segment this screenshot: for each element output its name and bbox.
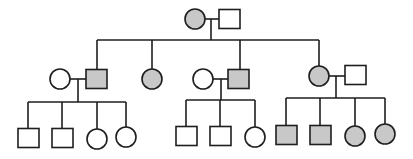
affected-female-circle xyxy=(375,124,395,144)
affected-female-circle xyxy=(309,66,329,86)
affected-male-square xyxy=(228,70,249,89)
unaffected-male-square xyxy=(52,129,73,148)
unaffected-male-square xyxy=(345,66,366,85)
unaffected-female-circle xyxy=(116,127,136,147)
unaffected-male-square xyxy=(219,10,240,29)
affected-female-circle xyxy=(345,126,365,146)
unaffected-female-circle xyxy=(245,127,265,147)
pedigree-svg xyxy=(0,0,413,159)
affected-male-square xyxy=(310,126,331,145)
affected-male-square xyxy=(276,126,297,145)
unaffected-female-circle xyxy=(50,69,70,89)
unaffected-female-circle xyxy=(193,69,213,89)
affected-male-square xyxy=(86,70,107,89)
unaffected-female-circle xyxy=(87,129,107,149)
unaffected-male-square xyxy=(210,127,231,146)
unaffected-male-square xyxy=(18,129,39,148)
affected-female-circle xyxy=(185,9,205,29)
pedigree-chart xyxy=(0,0,413,159)
affected-female-circle xyxy=(142,69,162,89)
unaffected-male-square xyxy=(176,127,197,146)
